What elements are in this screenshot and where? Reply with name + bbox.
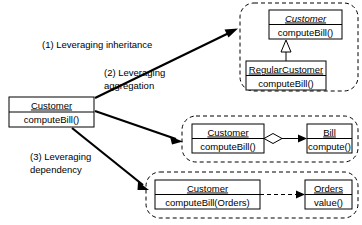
class-bill[interactable]: Bill compute() <box>307 124 352 153</box>
class-customer-dependency-operation: computeBill(Orders) <box>165 197 249 208</box>
group-dependency: Customer computeBill(Orders) Orders valu… <box>146 172 358 218</box>
class-customer-dependency[interactable]: Customer computeBill(Orders) <box>155 180 260 209</box>
dependency-arrow-head <box>296 191 305 199</box>
edge-label-3-line1: (3) Leveraging <box>30 151 91 162</box>
class-customer-abstract-name: Customer <box>285 13 327 24</box>
dependency-connector[interactable] <box>260 191 305 199</box>
class-regular-customer-name: RegularCustomer <box>249 64 323 75</box>
aggregation-arrow-head <box>298 135 307 143</box>
class-orders-name: Orders <box>314 183 343 194</box>
edge-label-2-line1: (2) Leveraging <box>104 67 165 78</box>
group-aggregation: Customer computeBill() Bill compute() <box>182 116 358 162</box>
arrow-to-aggregation-group[interactable] <box>95 111 183 145</box>
source-class-customer[interactable]: Customer computeBill() <box>9 97 94 127</box>
group-inheritance: Customer computeBill() RegularCustomer c… <box>240 3 358 91</box>
arrow-3-head <box>138 182 150 191</box>
class-customer-aggregation[interactable]: Customer computeBill() <box>192 124 264 153</box>
arrow-1-head <box>225 29 239 38</box>
class-orders-operation: value() <box>314 197 343 208</box>
class-bill-name: Bill <box>323 127 336 138</box>
class-customer-aggregation-operation: computeBill() <box>200 141 255 152</box>
edge-label-dependency: (3) Leveraging dependency <box>30 151 91 175</box>
class-orders[interactable]: Orders value() <box>305 180 352 209</box>
uml-diagram-canvas: Customer computeBill() (1) Leveraging in… <box>0 0 362 225</box>
edge-label-inheritance: (1) Leveraging inheritance <box>42 39 152 50</box>
hollow-triangle-icon <box>281 40 291 52</box>
arrow-2-line <box>95 111 176 139</box>
class-customer-dependency-name: Customer <box>187 183 228 194</box>
source-class-name: Customer <box>31 100 72 111</box>
class-regular-customer[interactable]: RegularCustomer computeBill() <box>246 61 326 90</box>
aggregation-connector[interactable] <box>264 134 307 144</box>
class-customer-abstract-operation: computeBill() <box>278 27 333 38</box>
arrow-2-head <box>170 137 183 145</box>
edge-label-1-line1: (1) Leveraging inheritance <box>42 39 152 50</box>
class-regular-customer-operation: computeBill() <box>258 78 313 89</box>
edge-label-3-line2: dependency <box>30 164 82 175</box>
generalization-connector[interactable] <box>281 40 291 61</box>
class-customer-abstract[interactable]: Customer computeBill() <box>269 10 342 39</box>
uml-diagram-svg: Customer computeBill() (1) Leveraging in… <box>0 0 362 225</box>
source-class-operation: computeBill() <box>24 114 79 125</box>
edge-label-2-line2: aggregation <box>104 80 154 91</box>
class-bill-operation: compute() <box>308 141 351 152</box>
class-customer-aggregation-name: Customer <box>207 127 248 138</box>
hollow-diamond-icon <box>264 134 282 144</box>
